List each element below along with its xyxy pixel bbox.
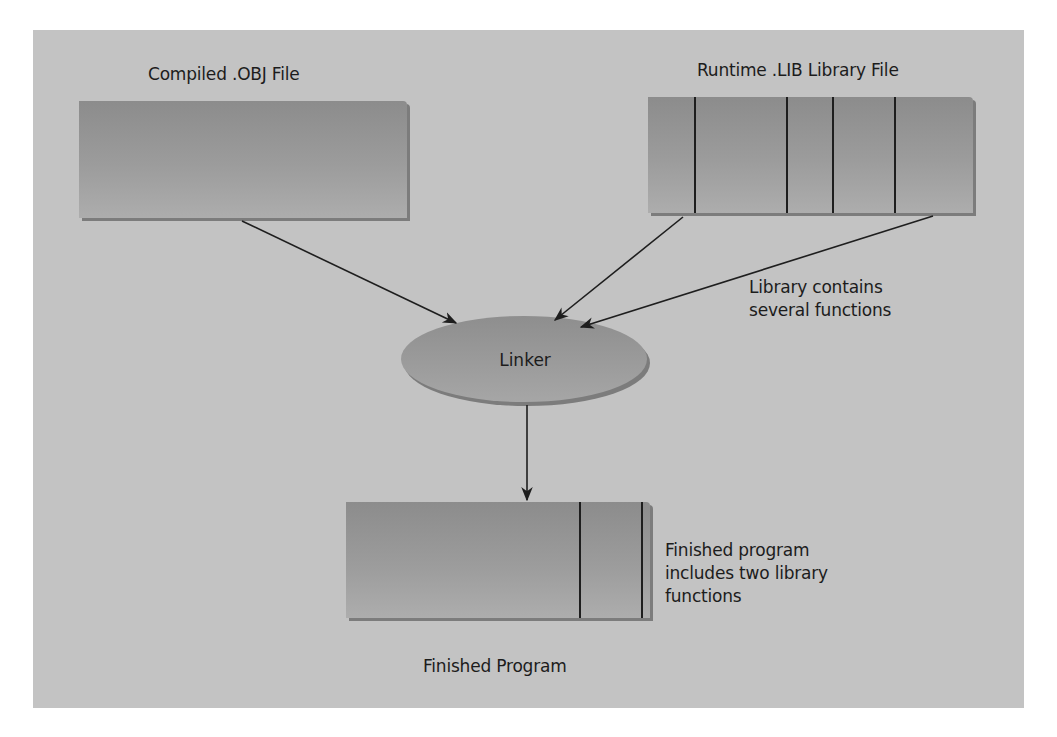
lib-to-linker-arrow	[555, 217, 683, 320]
linker-label: Linker	[470, 350, 580, 370]
obj-to-linker-arrow	[242, 221, 456, 323]
lib-to-linker-arrow	[581, 216, 933, 327]
